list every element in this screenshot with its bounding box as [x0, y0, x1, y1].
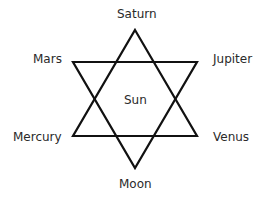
label-sun: Sun: [124, 93, 147, 107]
label-jupiter: Jupiter: [213, 52, 252, 66]
upward-triangle: [73, 30, 197, 136]
label-mars: Mars: [33, 52, 62, 66]
label-moon: Moon: [119, 177, 152, 191]
label-mercury: Mercury: [13, 130, 62, 144]
label-venus: Venus: [213, 130, 249, 144]
downward-triangle: [73, 62, 197, 168]
label-saturn: Saturn: [117, 7, 157, 21]
